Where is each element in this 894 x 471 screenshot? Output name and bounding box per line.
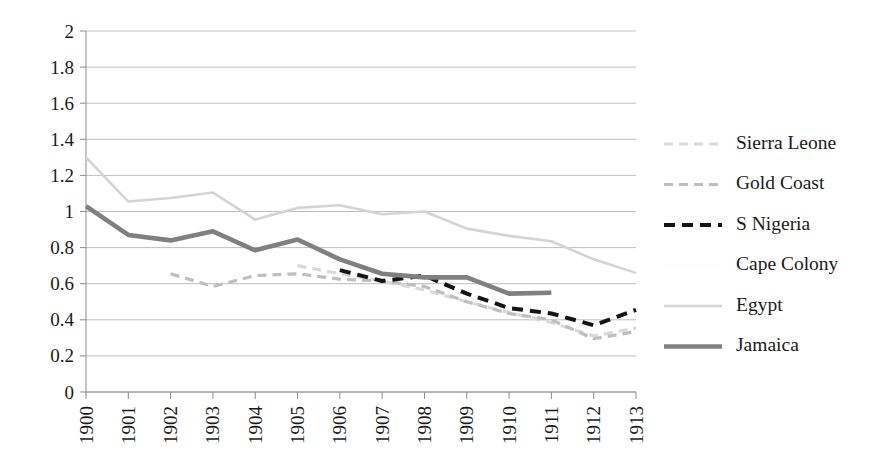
plot-area-wrapper: 00.20.40.60.811.21.41.61.82 190019011902…	[0, 0, 894, 471]
y-tick-label: 1.4	[50, 129, 74, 150]
series-line-jamaica	[86, 206, 551, 294]
y-tick-label: 0.2	[50, 345, 74, 366]
legend-label-s-nigeria: S Nigeria	[736, 213, 811, 234]
y-axis-tick-labels: 00.20.40.60.811.21.41.61.82	[50, 21, 74, 403]
x-tick-label: 1903	[202, 406, 223, 444]
y-tick-label: 1	[65, 201, 75, 222]
y-tick-label: 1.8	[50, 57, 74, 78]
axes-group	[80, 31, 636, 399]
legend-item-s-nigeria[interactable]: S Nigeria	[664, 213, 811, 234]
gridlines-group	[86, 31, 636, 392]
x-axis-tick-labels: 1900190119021903190419051906190719081909…	[76, 406, 647, 445]
x-tick-label: 1901	[118, 406, 139, 444]
x-tick-label: 1909	[456, 406, 477, 444]
x-tick-label: 1908	[414, 406, 435, 444]
line-chart-svg: 00.20.40.60.811.21.41.61.82 190019011902…	[0, 0, 894, 471]
x-tick-label: 1900	[76, 406, 97, 444]
y-tick-label: 0.8	[50, 237, 74, 258]
legend-item-jamaica[interactable]: Jamaica	[664, 334, 799, 355]
legend-label-egypt: Egypt	[736, 294, 783, 315]
legend-item-cape-colony[interactable]: Cape Colony	[664, 253, 839, 274]
legend-item-gold-coast[interactable]: Gold Coast	[664, 172, 825, 193]
x-tick-label: 1907	[372, 406, 393, 444]
legend-label-sierra-leone: Sierra Leone	[736, 132, 836, 153]
series-line-s-nigeria	[340, 270, 636, 325]
legend-label-gold-coast: Gold Coast	[736, 172, 825, 193]
legend-item-sierra-leone[interactable]: Sierra Leone	[664, 132, 836, 153]
y-tick-label: 2	[65, 21, 75, 42]
y-tick-label: 0.4	[50, 309, 74, 330]
legend-label-jamaica: Jamaica	[736, 334, 799, 355]
chart-container: 00.20.40.60.811.21.41.61.82 190019011902…	[0, 0, 894, 471]
x-tick-label: 1905	[287, 406, 308, 444]
legend-label-cape-colony: Cape Colony	[736, 253, 839, 274]
x-tick-label: 1913	[626, 406, 647, 444]
y-tick-label: 0.6	[50, 273, 74, 294]
x-tick-label: 1912	[583, 406, 604, 444]
y-tick-label: 1.6	[50, 93, 74, 114]
y-tick-label: 1.2	[50, 165, 74, 186]
x-tick-label: 1910	[499, 406, 520, 444]
series-line-egypt	[86, 157, 636, 273]
x-tick-label: 1904	[245, 406, 266, 445]
x-tick-label: 1911	[541, 406, 562, 443]
x-tick-label: 1906	[329, 406, 350, 444]
chart-legend: Sierra LeoneGold CoastS NigeriaCape Colo…	[664, 132, 839, 356]
y-tick-label: 0	[65, 382, 75, 403]
legend-item-egypt[interactable]: Egypt	[664, 294, 783, 315]
x-tick-label: 1902	[160, 406, 181, 444]
